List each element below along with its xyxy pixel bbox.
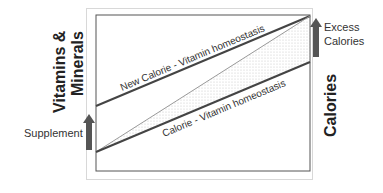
right-axis-label: Calories: [322, 74, 340, 137]
excess-label-line1: Excess: [324, 20, 379, 34]
y-axis-label-line2: Minerals: [69, 31, 87, 96]
excess-label-line2: Calories: [324, 34, 379, 48]
excess-calories-arrow-icon: [310, 18, 322, 57]
y-axis-label-line1: Vitamins &: [51, 31, 69, 113]
excess-calories-label: Excess Calories: [324, 20, 379, 48]
supplement-label: Supplement: [24, 127, 83, 139]
supplement-arrow-icon: [83, 114, 95, 150]
lower-homeostasis-line: [96, 62, 310, 152]
